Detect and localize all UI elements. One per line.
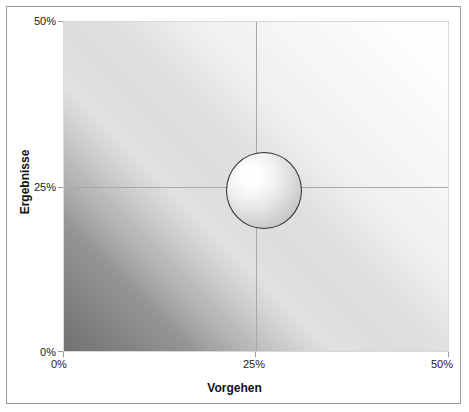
x-axis-tick-label-50: 50% bbox=[431, 358, 453, 370]
y-axis-tick-label-0: 0% bbox=[40, 346, 56, 358]
y-axis-title: Ergebnisse bbox=[18, 112, 32, 252]
plot-area bbox=[63, 21, 449, 352]
x-axis-tick-mark-50 bbox=[448, 352, 449, 357]
x-axis-tick-label-25: 25% bbox=[243, 358, 265, 370]
x-axis-tick-mark-0 bbox=[63, 352, 64, 357]
x-axis-tick-label-0: 0% bbox=[51, 358, 67, 370]
data-point-bubble[interactable] bbox=[226, 152, 302, 229]
y-axis-tick-label-25: 25% bbox=[34, 181, 56, 193]
chart-frame: Ergebnisse 50% 25% 0% 0% 25% 50% Vorgehe… bbox=[6, 6, 461, 404]
y-axis-tick-label-50: 50% bbox=[34, 15, 56, 27]
x-axis-title: Vorgehen bbox=[7, 381, 462, 395]
x-axis-tick-mark-25 bbox=[255, 352, 256, 357]
